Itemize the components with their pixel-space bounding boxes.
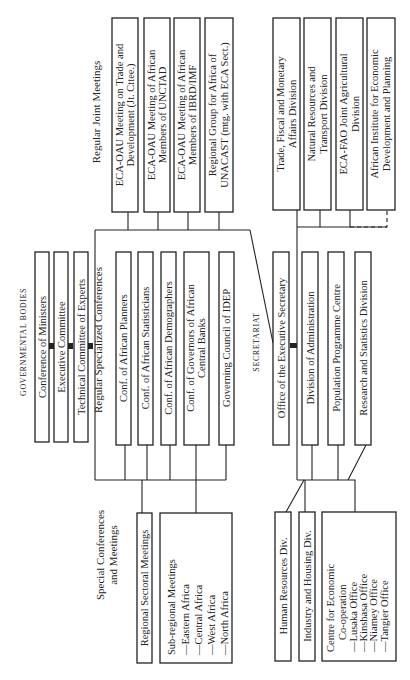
node-governing-council-idep: Governing Council of IDEP bbox=[219, 252, 234, 445]
svg-text:ECA-OAU Meeting of African: ECA-OAU Meeting of African bbox=[146, 49, 157, 180]
node-exec-secretary: Office of the Executive Secretary bbox=[273, 252, 289, 445]
dashed-link-idep bbox=[350, 210, 387, 227]
division-drops bbox=[297, 210, 350, 227]
specialized-drops bbox=[125, 445, 226, 480]
node-african-planners: Conf. of African Planners bbox=[116, 252, 131, 445]
heading-regular-specialized: Regular Specialized Conferences bbox=[92, 267, 104, 413]
node-centre-economic-cooperation: Centre for Economic Co-operation —Lusaka… bbox=[322, 512, 396, 661]
svg-text:Conf. of African Demographers: Conf. of African Demographers bbox=[163, 281, 174, 415]
svg-text:Conf. of Governors of African: Conf. of Governors of African bbox=[185, 284, 196, 412]
svg-text:Division: Division bbox=[350, 95, 361, 132]
svg-text:Co-operation: Co-operation bbox=[337, 584, 348, 640]
link-ministers-executive bbox=[49, 343, 54, 349]
node-eca-fao-agriculture: ECA-FAO Joint Agricultural Division bbox=[336, 18, 363, 210]
svg-text:Regional Group for Africa of: Regional Group for Africa of bbox=[207, 53, 218, 176]
svg-text:Members of IBRD/IMF: Members of IBRD/IMF bbox=[187, 65, 198, 165]
org-chart: GOVERNMENTAL BODIES Regular Specialized … bbox=[0, 0, 410, 680]
node-eca-oau-ibrd: ECA-OAU Meeting of African Members of IB… bbox=[174, 18, 200, 212]
svg-text:Research and Statistics Divisi: Research and Statistics Division bbox=[358, 279, 369, 415]
node-research-statistics: Research and Statistics Division bbox=[355, 252, 371, 445]
node-governors-central-banks: Conf. of Governors of African Central Ba… bbox=[184, 252, 209, 445]
svg-text:ECA-FAO Joint Agricultural: ECA-FAO Joint Agricultural bbox=[338, 53, 349, 174]
svg-text:Development and Planning: Development and Planning bbox=[381, 56, 392, 171]
node-population-programme: Population Programme Centre bbox=[328, 252, 344, 445]
node-human-resources: Human Resources Div. bbox=[275, 512, 291, 661]
node-subregional-meetings: Sub-regional Meetings —Eastern Africa —C… bbox=[160, 513, 232, 663]
link-executive-technical bbox=[68, 343, 73, 349]
svg-text:ECA-OAU Meeting of African: ECA-OAU Meeting of African bbox=[176, 49, 187, 180]
svg-text:Natural Resources and: Natural Resources and bbox=[306, 66, 317, 162]
svg-text:Conference of Ministers: Conference of Ministers bbox=[37, 296, 48, 398]
svg-text:UNACAST (mtg. with ECA Sect.): UNACAST (mtg. with ECA Sect.) bbox=[219, 42, 231, 188]
node-eca-oau-trade: ECA-OAU Meeting on Trade and Development… bbox=[112, 18, 138, 212]
secretariat-drops bbox=[312, 445, 338, 480]
svg-text:Centre for Economic: Centre for Economic bbox=[325, 564, 336, 652]
node-executive-committee: Executive Committee bbox=[54, 252, 68, 442]
svg-text:Regional Sectoral Meetings: Regional Sectoral Meetings bbox=[139, 530, 150, 647]
svg-text:Human Resources Div.: Human Resources Div. bbox=[278, 537, 289, 634]
link-exec-admin bbox=[290, 343, 297, 348]
heading-secretariat: SECRETARIAT bbox=[252, 312, 261, 371]
heading-governmental-bodies: GOVERNMENTAL BODIES bbox=[19, 288, 28, 396]
svg-text:Central Banks: Central Banks bbox=[196, 318, 207, 378]
svg-text:African Institute for Economic: African Institute for Economic bbox=[369, 49, 380, 179]
node-african-demographers: Conf. of African Demographers bbox=[161, 252, 176, 445]
svg-text:Transport Division: Transport Division bbox=[318, 74, 329, 154]
svg-text:Population Programme Centre: Population Programme Centre bbox=[331, 284, 342, 412]
node-technical-committee: Technical Committee of Experts bbox=[74, 252, 88, 442]
human-resources-diagonal bbox=[286, 480, 304, 512]
svg-text:Sub-regional Meetings: Sub-regional Meetings bbox=[166, 559, 177, 655]
svg-text:Affairs Division: Affairs Division bbox=[287, 79, 298, 148]
svg-text:Office of the Executive Secret: Office of the Executive Secretary bbox=[276, 277, 287, 418]
node-regional-sectoral: Regional Sectoral Meetings bbox=[137, 513, 152, 663]
svg-text:—Tangier Office: —Tangier Office bbox=[379, 580, 390, 653]
node-eca-oau-unctad: ECA-OAU Meeting of African Members of UN… bbox=[144, 18, 170, 212]
heading-regular-joint: Regular Joint Meetings bbox=[90, 61, 102, 164]
svg-text:Conf. of African Statisticians: Conf. of African Statisticians bbox=[140, 287, 151, 409]
svg-text:—Central Africa: —Central Africa bbox=[193, 584, 204, 656]
node-administration: Division of Administration bbox=[302, 252, 318, 445]
svg-text:—West Africa: —West Africa bbox=[206, 595, 217, 656]
joint-drops bbox=[128, 212, 219, 230]
bus-secretariat-bottom bbox=[297, 480, 355, 513]
svg-text:Conf. of African Planners: Conf. of African Planners bbox=[118, 294, 129, 402]
heading-special-l1: Special Conferences bbox=[94, 510, 106, 600]
svg-text:—North Africa: —North Africa bbox=[219, 591, 230, 656]
node-unacast: Regional Group for Africa of UNACAST (mt… bbox=[205, 18, 233, 212]
node-industry-housing: Industry and Housing Div. bbox=[299, 512, 315, 661]
svg-text:—Eastern Africa: —Eastern Africa bbox=[180, 584, 191, 656]
svg-text:Executive Committee: Executive Committee bbox=[56, 301, 67, 393]
svg-text:Development (Jt. Cttee.): Development (Jt. Cttee.) bbox=[125, 63, 137, 167]
svg-text:Division of Administration: Division of Administration bbox=[305, 291, 316, 405]
node-trade-fiscal: Trade, Fiscal and Monetary Affairs Divis… bbox=[273, 18, 300, 210]
node-african-institute-idep: African Institute for Economic Developme… bbox=[367, 18, 395, 210]
heading-special-l2: and Meetings bbox=[107, 525, 119, 585]
svg-text:Members of UNCTAD: Members of UNCTAD bbox=[157, 66, 168, 163]
svg-text:Trade, Fiscal and Monetary: Trade, Fiscal and Monetary bbox=[275, 55, 286, 171]
svg-text:Technical Committee of Experts: Technical Committee of Experts bbox=[76, 279, 87, 415]
research-diagonal bbox=[348, 445, 366, 480]
svg-text:Industry and Housing Div.: Industry and Housing Div. bbox=[302, 530, 313, 641]
svg-text:—Niamey Office: —Niamey Office bbox=[368, 579, 379, 653]
node-african-statisticians: Conf. of African Statisticians bbox=[138, 252, 153, 445]
svg-text:ECA-OAU Meeting on Trade and: ECA-OAU Meeting on Trade and bbox=[114, 43, 125, 186]
node-natural-resources: Natural Resources and Transport Division bbox=[304, 18, 331, 210]
svg-text:Governing Council of IDEP: Governing Council of IDEP bbox=[221, 289, 232, 407]
node-conference-of-ministers: Conference of Ministers bbox=[35, 252, 49, 442]
